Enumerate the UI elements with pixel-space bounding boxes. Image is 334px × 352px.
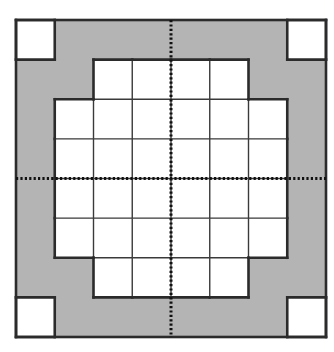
grid-cell (171, 218, 210, 258)
grid-cell (16, 20, 55, 60)
grid-cell (132, 218, 171, 258)
grid-cell (55, 99, 94, 139)
grid-cell (210, 218, 249, 258)
grid-diagram-canvas (0, 0, 334, 352)
grid-cell (55, 139, 94, 179)
grid-cell (210, 139, 249, 179)
grid-cell (94, 139, 133, 179)
grid-cell (132, 99, 171, 139)
grid-cell (94, 218, 133, 258)
grid-cell (287, 20, 326, 60)
grid-cell (171, 60, 210, 100)
grid-cell (210, 99, 249, 139)
grid-cell (132, 179, 171, 219)
grid-cell (249, 179, 288, 219)
grid-cell (55, 179, 94, 219)
grid-cell (132, 258, 171, 298)
grid-cell (94, 99, 133, 139)
grid-cell (171, 179, 210, 219)
grid-cell (132, 60, 171, 100)
grid-cell (249, 99, 288, 139)
grid-cell (249, 218, 288, 258)
grid-cell (210, 179, 249, 219)
grid-cell (171, 258, 210, 298)
grid-diagram (0, 0, 334, 352)
grid-cell (94, 179, 133, 219)
grid-cell (94, 258, 133, 298)
grid-cell (16, 297, 55, 337)
grid-cell (171, 99, 210, 139)
grid-cell (210, 60, 249, 100)
grid-cell (132, 139, 171, 179)
grid-cell (55, 218, 94, 258)
grid-cell (171, 139, 210, 179)
grid-cell (210, 258, 249, 298)
grid-cell (94, 60, 133, 100)
grid-cell (287, 297, 326, 337)
grid-cell (249, 139, 288, 179)
